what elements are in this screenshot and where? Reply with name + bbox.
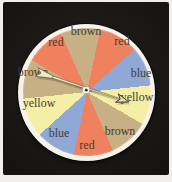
- pin-dot: [85, 89, 88, 92]
- page: brownredblueyellowbrownredblueyellowbrow…: [0, 0, 172, 182]
- arrow-body: [35, 68, 130, 107]
- spinner-arrow-icon: [0, 0, 172, 182]
